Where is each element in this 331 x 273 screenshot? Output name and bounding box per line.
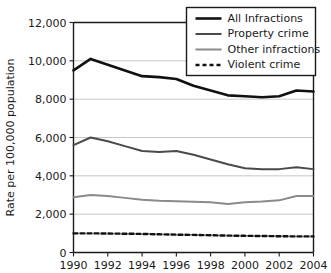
xtick-label: 1994 bbox=[128, 259, 156, 272]
legend-label-2: Other infractions bbox=[228, 43, 321, 56]
ytick-label: 12,000 bbox=[28, 17, 67, 30]
ytick-label: 2,000 bbox=[35, 208, 67, 221]
xtick-label: 1992 bbox=[94, 259, 122, 272]
ytick-label: 10,000 bbox=[28, 55, 67, 68]
xtick-label: 2002 bbox=[265, 259, 293, 272]
series-line-3 bbox=[74, 233, 314, 236]
line-chart: 02,0004,0006,0008,00010,00012,0001990199… bbox=[0, 0, 331, 273]
y-axis-label: Rate per 100,000 population bbox=[4, 58, 17, 216]
ytick-label: 8,000 bbox=[35, 93, 67, 106]
series-line-2 bbox=[74, 195, 314, 204]
xtick-label: 1998 bbox=[197, 259, 225, 272]
ytick-label: 6,000 bbox=[35, 132, 67, 145]
chart-container: 02,0004,0006,0008,00010,00012,0001990199… bbox=[0, 0, 331, 273]
xtick-label: 2000 bbox=[231, 259, 259, 272]
xtick-label: 2004 bbox=[300, 259, 328, 272]
legend-label-3: Violent crime bbox=[228, 58, 301, 71]
ytick-label: 4,000 bbox=[35, 170, 67, 183]
xtick-label: 1996 bbox=[162, 259, 190, 272]
xtick-label: 1990 bbox=[60, 259, 88, 272]
legend-label-1: Property crime bbox=[228, 27, 309, 40]
series-line-1 bbox=[74, 138, 314, 170]
legend-label-0: All Infractions bbox=[228, 12, 304, 25]
